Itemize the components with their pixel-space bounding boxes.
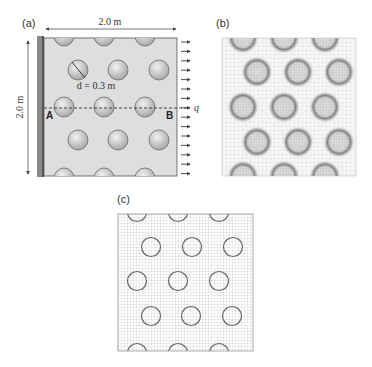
inclusion bbox=[94, 97, 114, 117]
diameter-label: d = 0.3 m bbox=[77, 80, 116, 91]
panel-a: (a) 2.0 m 2.0 m bbox=[14, 16, 199, 188]
refined-mesh-zones bbox=[227, 22, 355, 192]
inclusion bbox=[149, 60, 169, 80]
inclusion bbox=[54, 168, 74, 188]
inclusion bbox=[135, 97, 155, 117]
inclusion bbox=[94, 168, 114, 188]
panel-c-label: (c) bbox=[117, 193, 130, 205]
inclusion bbox=[149, 130, 169, 150]
inclusion bbox=[108, 60, 128, 80]
panel-b-label: (b) bbox=[216, 17, 229, 29]
inclusion bbox=[135, 168, 155, 188]
panel-b: (b) bbox=[216, 17, 356, 192]
figure-canvas: (a) 2.0 m 2.0 m bbox=[0, 0, 372, 367]
structured-grid bbox=[118, 214, 253, 351]
inclusion bbox=[108, 130, 128, 150]
panel-c: (c) bbox=[117, 193, 253, 363]
inclusion bbox=[54, 97, 74, 117]
height-dimension-label: 2.0 m bbox=[14, 95, 25, 118]
width-dimension-label: 2.0 m bbox=[99, 16, 122, 27]
load-label-q: q bbox=[194, 102, 199, 113]
panel-a-label: (a) bbox=[22, 17, 35, 29]
wall-edge bbox=[42, 36, 44, 177]
inclusion bbox=[68, 130, 88, 150]
point-a-label: A bbox=[46, 110, 53, 121]
point-b-label: B bbox=[166, 110, 173, 121]
load-arrows bbox=[181, 42, 190, 174]
